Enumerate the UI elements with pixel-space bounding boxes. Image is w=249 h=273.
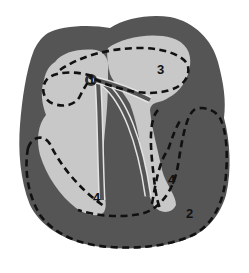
label-4-right: 4 (168, 172, 176, 187)
heart-diagram: 1 2 3 4 4 (0, 0, 249, 273)
label-4-left: 4 (93, 190, 101, 205)
label-3: 3 (157, 62, 164, 77)
label-2: 2 (186, 206, 193, 221)
label-1: 1 (88, 72, 95, 87)
